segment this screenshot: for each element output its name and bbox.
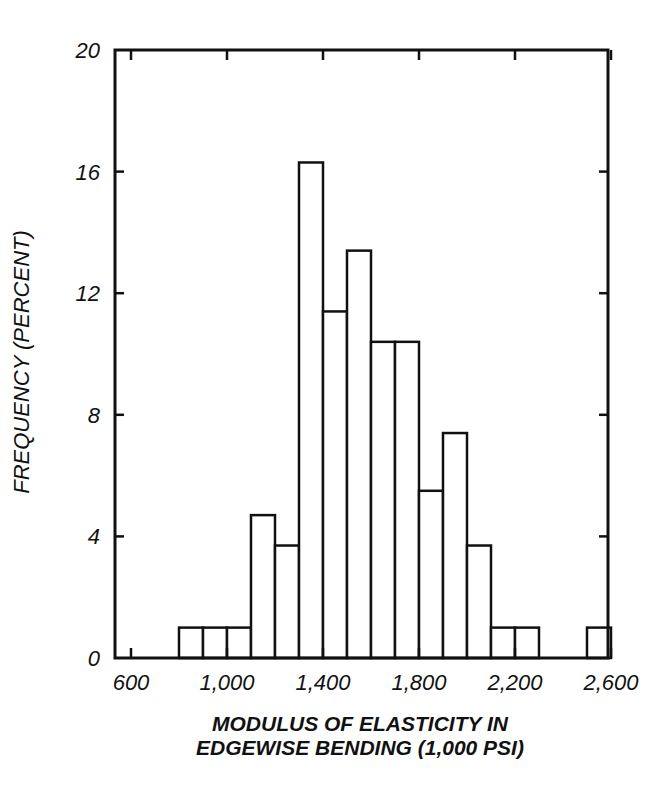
y-tick-label: 4: [88, 524, 100, 549]
histogram-bar: [275, 546, 299, 658]
histogram-bars: [179, 162, 611, 658]
histogram-bar: [323, 311, 347, 658]
histogram-bar: [419, 491, 443, 658]
histogram-bar: [179, 628, 203, 658]
y-tick-label: 0: [88, 646, 101, 671]
x-tick-label: 1,400: [295, 670, 351, 695]
x-tick-label: 600: [113, 670, 150, 695]
histogram-bar: [371, 342, 395, 658]
y-tick-label: 12: [76, 281, 100, 306]
y-tick-label: 20: [75, 38, 101, 63]
histogram-bar: [491, 628, 515, 658]
x-tick-label: 1,000: [199, 670, 255, 695]
histogram-bar: [227, 628, 251, 658]
x-tick-label: 2,600: [582, 670, 639, 695]
histogram-bar: [203, 628, 227, 658]
histogram-bar: [395, 342, 419, 658]
x-axis-title-line-1: MODULUS OF ELASTICITY IN: [150, 712, 570, 736]
histogram-bar: [251, 515, 275, 658]
x-axis-title-line-2: EDGEWISE BENDING (1,000 PSI): [150, 736, 570, 760]
histogram-bar: [467, 546, 491, 658]
y-axis-title: FREQUENCY (PERCENT): [9, 230, 35, 494]
y-tick-label: 16: [76, 160, 101, 185]
histogram-bar: [299, 162, 323, 658]
x-tick-label: 1,800: [391, 670, 447, 695]
histogram-chart: 048121620 6001,0001,4001,8002,2002,600: [0, 0, 664, 791]
histogram-bar: [515, 628, 539, 658]
y-tick-label: 8: [88, 403, 101, 428]
histogram-bar: [347, 251, 371, 658]
histogram-bar: [443, 433, 467, 658]
x-tick-label: 2,200: [486, 670, 543, 695]
